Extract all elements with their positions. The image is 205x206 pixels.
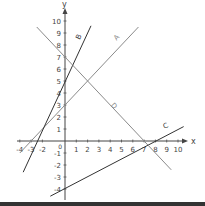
x-axis-arrow-icon: [182, 139, 188, 144]
line-chart: xy -4-3-21234567891010987654321-1-2-3-40…: [0, 0, 205, 202]
y-tick-label: 1: [57, 126, 61, 134]
x-tick-label: 10: [174, 146, 183, 154]
series-label-b: B: [74, 33, 83, 41]
y-tick-label: 2: [57, 114, 61, 122]
x-tick-label: 5: [119, 146, 123, 154]
x-tick-label: -2: [39, 146, 46, 154]
series-label-d: D: [109, 101, 119, 110]
origin-label: 0: [58, 143, 62, 150]
x-tick-label: 1: [74, 146, 78, 154]
series-lines: [20, 26, 184, 196]
y-tick-label: -3: [54, 174, 61, 182]
y-tick-label: 10: [52, 18, 61, 26]
series-line-a: [20, 27, 139, 153]
series-label-a: A: [112, 33, 121, 42]
x-tick-label: 2: [85, 146, 89, 154]
y-tick-label: 6: [57, 66, 62, 74]
x-axis-label: x: [191, 137, 196, 146]
y-tick-label: 3: [57, 102, 61, 110]
y-tick-label: -2: [54, 162, 61, 170]
y-axis-label: y: [62, 0, 67, 9]
series-label-c: C: [162, 121, 170, 130]
x-tick-label: 4: [108, 146, 113, 154]
y-tick-label: 7: [57, 54, 61, 62]
y-tick-label: 9: [57, 30, 61, 38]
y-tick-label: -1: [54, 150, 61, 158]
x-tick-label: 3: [97, 146, 101, 154]
axes: xy: [17, 0, 196, 200]
bottom-border: [0, 202, 205, 206]
tick-labels: -4-3-21234567891010987654321-1-2-3-40: [16, 18, 182, 194]
x-tick-label: 9: [164, 146, 168, 154]
y-tick-label: 5: [57, 78, 61, 86]
